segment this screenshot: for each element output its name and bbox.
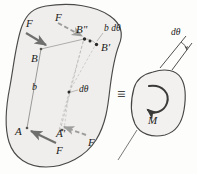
right-body-leader-line	[118, 130, 137, 160]
angle-label-inner: dθ	[79, 85, 88, 95]
angle-wedge-line-1	[160, 36, 186, 68]
point-dot-A	[26, 127, 29, 130]
force-label-top-left: F	[26, 18, 33, 29]
equivalence-symbol: ≡	[117, 86, 125, 103]
point-dot-mid	[89, 40, 92, 43]
point-label-B-double-prime: B"	[76, 24, 87, 35]
point-label-A-prime: A'	[56, 128, 65, 139]
point-dot-pivot	[68, 91, 71, 94]
force-label-bottom-right: F	[88, 137, 95, 148]
moment-label: M	[148, 115, 157, 126]
point-dot-Bp	[95, 43, 98, 46]
point-label-A: A	[15, 126, 22, 137]
point-label-B-prime: B'	[101, 42, 110, 53]
right-body-outline	[132, 70, 186, 136]
angle-wedge-line-2	[172, 43, 192, 70]
moment-arm-label: b	[32, 82, 37, 92]
angle-wedge-arc	[181, 42, 187, 50]
force-label-bottom-left: F	[56, 145, 63, 156]
angle-label-outer: dθ	[171, 28, 180, 38]
point-label-B: B	[31, 53, 38, 64]
arc-length-label: b dθ	[104, 24, 121, 34]
point-dot-B	[40, 48, 43, 51]
figure-container: F F F F B B" B' A A' b b dθ dθ ≡ M dθ	[0, 0, 197, 174]
point-dot-Bpp	[83, 37, 86, 40]
force-label-top-right: F	[55, 12, 62, 23]
